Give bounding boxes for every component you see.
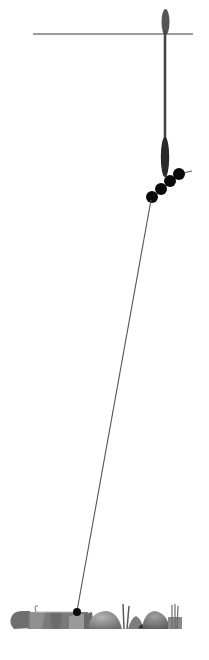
weed xyxy=(127,606,129,629)
lakebed xyxy=(10,604,182,629)
shot-weight xyxy=(173,168,185,180)
fishing-rig-diagram xyxy=(0,0,209,660)
shot-weight xyxy=(155,183,167,195)
hook-icon xyxy=(35,606,38,612)
stone xyxy=(88,611,122,629)
bottom-shot-weight xyxy=(73,608,81,616)
stone xyxy=(142,611,170,629)
stone xyxy=(50,612,62,629)
shot-weight xyxy=(146,191,158,203)
weed xyxy=(123,604,124,629)
main-line xyxy=(77,200,151,611)
float-body xyxy=(161,137,169,177)
